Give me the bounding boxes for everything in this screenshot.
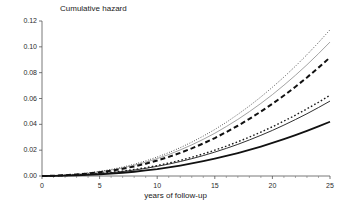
y-tick-label-2: 0.04 — [7, 120, 37, 128]
x-tick-label-3: 15 — [205, 182, 225, 190]
plot-area — [0, 0, 351, 212]
x-tick-label-4: 20 — [262, 182, 282, 190]
y-tick-label-3: 0.06 — [7, 95, 37, 103]
y-tick-label-5: 0.10 — [7, 43, 37, 51]
x-tick-label-5: 25 — [320, 182, 340, 190]
x-tick-label-2: 10 — [147, 182, 167, 190]
y-tick-label-6: 0.12 — [7, 17, 37, 25]
cumulative-hazard-chart: Cumulative hazard years of follow-up 0.0… — [0, 0, 351, 212]
y-tick-label-1: 0.02 — [7, 146, 37, 154]
x-tick-label-0: 0 — [32, 182, 52, 190]
axis-lines — [42, 21, 330, 176]
x-tick-label-1: 5 — [90, 182, 110, 190]
axis-ticks — [39, 21, 330, 179]
data-series-layer — [42, 30, 330, 176]
series-line-curve-6 — [42, 122, 330, 176]
y-tick-label-4: 0.08 — [7, 69, 37, 77]
series-line-curve-2 — [42, 42, 330, 176]
series-line-curve-1 — [42, 30, 330, 176]
x-axis-title: years of follow-up — [0, 192, 351, 200]
chart-title: Cumulative hazard — [60, 5, 127, 13]
y-tick-label-0: 0.00 — [7, 172, 37, 180]
